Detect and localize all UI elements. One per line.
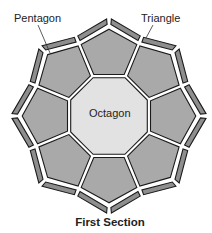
triangle-leader-line (146, 25, 153, 38)
pentagon-label: Pentagon (14, 12, 61, 24)
octagon-label: Octagon (89, 107, 131, 119)
pentagon (22, 88, 67, 144)
diagram-caption: First Section (0, 216, 212, 228)
triangle-label: Triangle (141, 12, 180, 24)
pentagon (151, 88, 196, 144)
pentagon (81, 29, 137, 74)
pentagon (81, 158, 137, 203)
